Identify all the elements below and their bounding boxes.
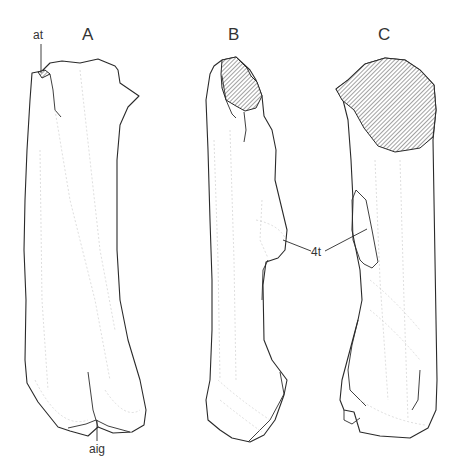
4t-leader-line-b: [283, 240, 311, 251]
annotation-at: at: [33, 29, 43, 41]
annotation-fourth-trochanter: 4t: [311, 246, 321, 258]
panel-c-drawing: [336, 58, 437, 438]
panel-label-c: C: [378, 26, 390, 43]
figure-drawing: [0, 0, 462, 464]
panel-a-drawing: [24, 59, 146, 436]
annotation-aig: aig: [89, 443, 105, 455]
bone-illustration-figure: A B C at aig 4t: [0, 0, 462, 464]
panel-b-drawing: [206, 57, 287, 442]
panel-label-a: A: [82, 26, 93, 43]
panel-label-b: B: [228, 26, 239, 43]
